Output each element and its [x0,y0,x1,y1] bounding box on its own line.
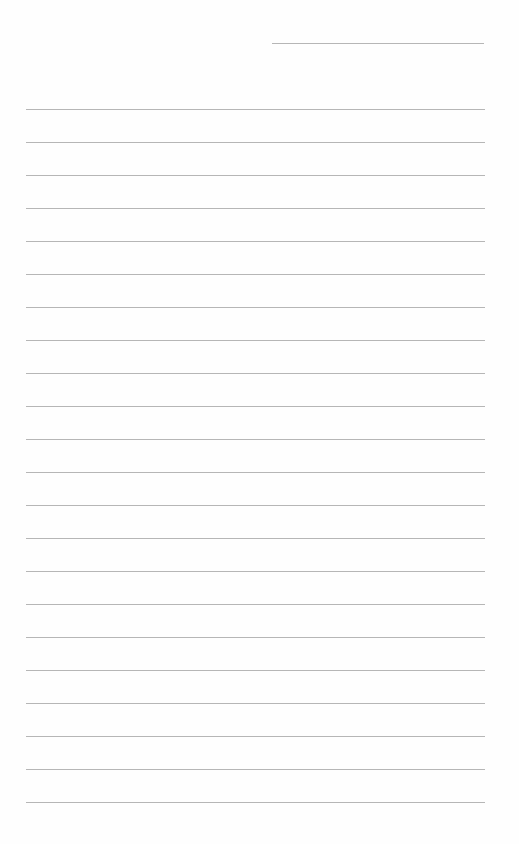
ruled-line [26,736,485,737]
ruled-line [26,175,485,176]
header-date-line [272,43,484,44]
ruled-line [26,340,485,341]
ruled-line [26,703,485,704]
ruled-line [26,142,485,143]
ruled-line [26,604,485,605]
ruled-line [26,274,485,275]
ruled-line [26,109,485,110]
ruled-line [26,670,485,671]
ruled-line [26,571,485,572]
ruled-line [26,538,485,539]
ruled-line [26,241,485,242]
ruled-line [26,307,485,308]
ruled-line [26,439,485,440]
ruled-line [26,505,485,506]
ruled-line [26,472,485,473]
ruled-line [26,769,485,770]
ruled-line [26,637,485,638]
ruled-line [26,406,485,407]
ruled-line [26,208,485,209]
ruled-line [26,802,485,803]
notebook-page [0,0,519,844]
ruled-line [26,373,485,374]
